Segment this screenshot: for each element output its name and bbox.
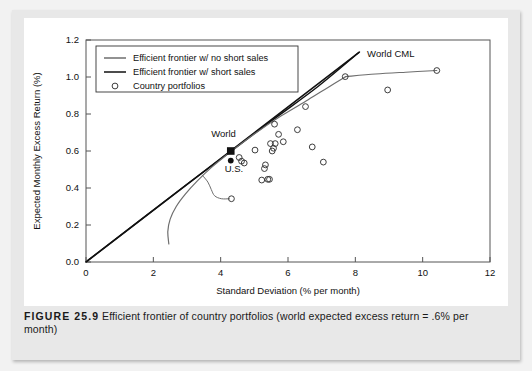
x-tick-label: 2 [151, 267, 156, 278]
x-tick-label: 12 [485, 267, 496, 278]
x-tick-label: 4 [218, 267, 223, 278]
scatter-chart: 024681012 0.00.20.40.60.81.01.2 World CM… [24, 18, 508, 306]
plot-card: 024681012 0.00.20.40.60.81.01.2 World CM… [24, 18, 508, 306]
y-tick-label: 0.0 [66, 256, 79, 267]
chart-legend: Efficient frontier w/ no short salesEffi… [96, 46, 298, 92]
figure-caption: FIGURE 25.9 Efficient frontier of countr… [24, 310, 494, 336]
y-tick-label: 0.6 [66, 145, 79, 156]
legend-label: Efficient frontier w/ short sales [133, 67, 256, 77]
world-cml-label: World CML [367, 48, 414, 59]
world-label: World [211, 128, 236, 139]
x-tick-label: 10 [417, 267, 428, 278]
us-label: U.S. [225, 163, 243, 174]
x-tick-label: 8 [353, 267, 358, 278]
y-tick-label: 1.0 [66, 71, 79, 82]
y-tick-label: 0.8 [66, 108, 79, 119]
y-tick-label: 0.4 [66, 182, 79, 193]
y-axis-title: Expected Monthly Excess Return (%) [31, 72, 42, 229]
chart-canvas: 024681012 0.00.20.40.60.81.01.2 World CM… [24, 18, 508, 306]
x-axis-title: Standard Deviation (% per month) [216, 285, 360, 296]
legend-label: Efficient frontier w/ no short sales [133, 53, 269, 63]
figure-card: 024681012 0.00.20.40.60.81.01.2 World CM… [12, 10, 520, 360]
y-tick-label: 0.2 [66, 219, 79, 230]
x-tick-label: 0 [83, 267, 88, 278]
figure-number: FIGURE 25.9 [24, 310, 99, 322]
y-tick-label: 1.2 [66, 34, 79, 45]
world-marker [227, 147, 235, 155]
legend-label: Country portfolios [133, 81, 205, 91]
x-tick-label: 6 [285, 267, 290, 278]
